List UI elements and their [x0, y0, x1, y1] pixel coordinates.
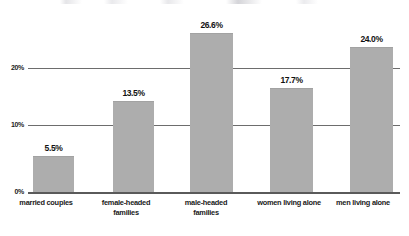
y-tick-label-0: 0% — [0, 188, 24, 196]
bar-women-living-alone[interactable] — [270, 88, 313, 193]
category-label-men-living-alone: men living alone — [320, 198, 406, 208]
bar-men-living-alone[interactable] — [350, 47, 393, 193]
category-label-married-couples: married couples — [8, 198, 84, 208]
bar-chart-figure: 20% 10% 0% 5.5% 13.5% 26.6% 17.7% 24.0% — [0, 0, 409, 236]
bar-group-married-couples[interactable]: 5.5% — [33, 10, 74, 193]
bar-value-label-male-headed-families: 26.6% — [190, 20, 233, 30]
bar-female-headed-families[interactable] — [113, 101, 154, 193]
bar-male-headed-families[interactable] — [190, 33, 233, 193]
bar-group-men-living-alone[interactable]: 24.0% — [350, 10, 393, 193]
y-tick-label-10: 10% — [0, 121, 24, 129]
bar-value-label-married-couples: 5.5% — [33, 143, 74, 153]
scan-artifact-strip — [0, 0, 409, 4]
bar-married-couples[interactable] — [33, 156, 74, 193]
bar-group-male-headed-families[interactable]: 26.6% — [190, 10, 233, 193]
bar-value-label-men-living-alone: 24.0% — [350, 34, 393, 44]
bar-group-female-headed-families[interactable]: 13.5% — [113, 10, 154, 193]
bar-value-label-women-living-alone: 17.7% — [270, 75, 313, 85]
plot-area: 5.5% 13.5% 26.6% 17.7% 24.0% — [28, 10, 400, 193]
y-tick-label-20: 20% — [0, 64, 24, 72]
x-axis-baseline — [28, 192, 400, 194]
bar-value-label-female-headed-families: 13.5% — [113, 88, 154, 98]
bar-group-women-living-alone[interactable]: 17.7% — [270, 10, 313, 193]
